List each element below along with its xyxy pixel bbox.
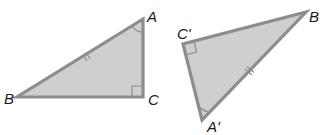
vertex-label-c-prime: C' (177, 25, 192, 42)
vertex-label-a: A (146, 8, 157, 25)
triangle-abc-shape (17, 19, 143, 97)
vertex-label-b-right: B (309, 8, 319, 25)
vertex-label-a-prime: A' (206, 118, 221, 135)
vertex-label-c: C (148, 91, 159, 108)
triangle-a-prime-b-c-prime (183, 12, 306, 120)
congruent-triangles-diagram: A B C C' B A' (0, 0, 320, 135)
triangle-a-prime-b-c-prime-shape (183, 12, 306, 120)
vertex-label-b: B (4, 90, 14, 107)
triangle-abc (17, 19, 143, 97)
